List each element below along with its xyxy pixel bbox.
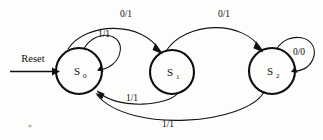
transition-s2-s0-path: [97, 92, 264, 120]
fsm-canvas: Reset 0/1 0/1 1/1 0/0: [0, 0, 323, 140]
transition-s2-to-s0: 1/1: [95, 92, 264, 129]
state-node-s0[interactable]: S 0: [56, 48, 102, 94]
self-loop-s2-label: 0/0: [293, 47, 305, 57]
state-subscript-s2: 2: [276, 72, 280, 80]
state-label-s0: S: [74, 65, 80, 77]
self-loop-s0-label: 1/1: [98, 29, 110, 39]
reset-arrow-group: Reset: [10, 53, 60, 75]
state-subscript-s0: 0: [83, 72, 87, 80]
state-label-s2: S: [267, 65, 273, 77]
scan-speck: [28, 124, 31, 127]
transition-s2-s0-label: 1/1: [162, 119, 174, 129]
transition-s1-s0-label: 1/1: [126, 93, 138, 103]
state-label-s1: S: [167, 66, 173, 78]
transition-s1-s2-path: [166, 28, 262, 51]
transition-s0-s1-label: 0/1: [120, 9, 132, 19]
state-node-s2[interactable]: S 2: [249, 48, 295, 94]
reset-label: Reset: [21, 53, 44, 64]
transition-s1-to-s2: 0/1: [166, 9, 264, 52]
state-diagram-figure: Reset 0/1 0/1 1/1 0/0: [0, 0, 323, 140]
state-subscript-s1: 1: [176, 73, 180, 81]
state-node-s1[interactable]: S 1: [150, 50, 194, 94]
transition-s1-s2-label: 0/1: [218, 9, 230, 19]
